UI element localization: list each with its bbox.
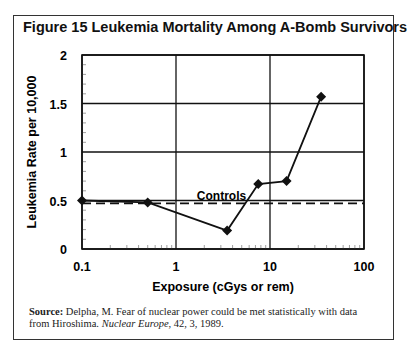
y-axis-tick-labels: 00.511.52 [50, 49, 67, 257]
source-journal: Nuclear Europe [102, 318, 169, 329]
y-tick-label: 2 [60, 49, 67, 63]
data-point-marker [143, 197, 153, 207]
minor-ticks [82, 65, 360, 249]
data-point-marker [222, 226, 232, 236]
x-tick-label: 100 [354, 260, 375, 274]
survivors-line [82, 97, 321, 231]
data-point-marker [253, 179, 263, 189]
grid-lines [82, 55, 364, 249]
source-citation: Source: Delpha, M. Fear of nuclear power… [29, 306, 379, 330]
y-tick-label: 0 [60, 243, 67, 257]
x-tick-label: 1 [173, 260, 180, 274]
chart: 00.511.52 0.1110100 Controls Exposure (c… [0, 0, 407, 357]
y-axis-label: Leukemia Rate per 10,000 [25, 76, 39, 229]
data-point-marker [282, 176, 292, 186]
y-tick-label: 1 [60, 146, 67, 160]
x-axis-label: Exposure (cGys or rem) [152, 280, 294, 294]
controls-label: Controls [197, 189, 247, 203]
y-tick-label: 1.5 [50, 98, 67, 112]
data-series [77, 92, 364, 236]
source-text-end: , 42, 3, 1989. [169, 318, 224, 329]
y-tick-label: 0.5 [50, 195, 67, 209]
data-point-marker [316, 92, 326, 102]
x-axis-tick-labels: 0.1110100 [73, 260, 374, 274]
x-tick-label: 10 [263, 260, 277, 274]
annotations: Controls [197, 189, 247, 203]
x-tick-label: 0.1 [73, 260, 90, 274]
source-label: Source: [29, 306, 63, 317]
